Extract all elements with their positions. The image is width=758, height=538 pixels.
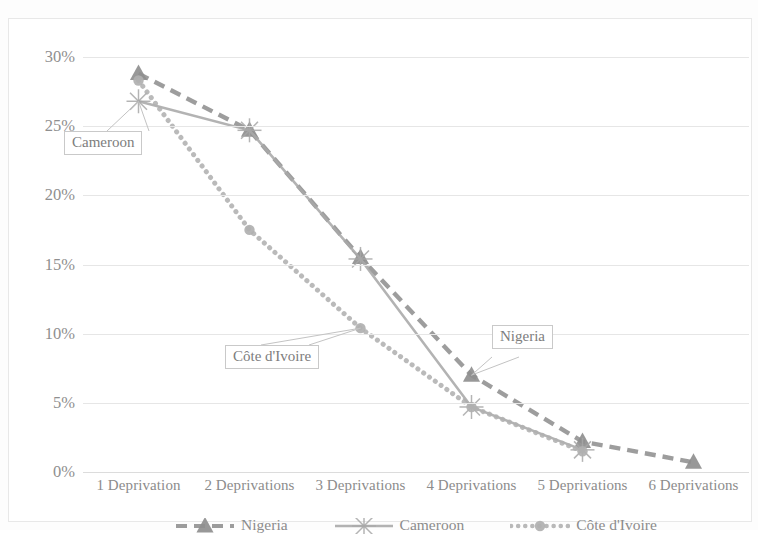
data-point-marker-circle bbox=[577, 446, 587, 456]
gridline-30 bbox=[83, 57, 749, 58]
data-point-marker-circle bbox=[355, 323, 365, 333]
legend-key-circle-icon bbox=[510, 518, 570, 532]
data-point-marker-star bbox=[238, 118, 262, 142]
callout-cote-divoire: Côte d'Ivoire bbox=[225, 345, 319, 369]
data-point-marker-star bbox=[349, 247, 373, 271]
x-axis-tick-1: 1 Deprivation bbox=[83, 477, 194, 503]
gridline-20 bbox=[83, 195, 749, 196]
x-axis-tick-3: 3 Deprivations bbox=[305, 477, 416, 503]
y-axis-tick-10pct: 10% bbox=[45, 324, 75, 344]
data-point-marker-circle bbox=[244, 225, 254, 235]
callout-nigeria-label: Nigeria bbox=[500, 328, 545, 344]
data-point-marker-triangle bbox=[463, 366, 480, 381]
y-axis-tick-30pct: 30% bbox=[45, 47, 75, 67]
gridline-15 bbox=[83, 265, 749, 266]
x-axis-tick-5: 5 Deprivations bbox=[527, 477, 638, 503]
legend-key-triangle-icon bbox=[175, 518, 235, 532]
data-point-marker-star bbox=[352, 518, 376, 534]
chart-legend: NigeriaCameroonCôte d'Ivoire bbox=[83, 511, 749, 538]
callout-cameroon: Cameroon bbox=[64, 131, 142, 155]
y-axis-tick-20pct: 20% bbox=[45, 185, 75, 205]
series-line-nigeria bbox=[139, 74, 694, 463]
x-axis-tick-2: 2 Deprivations bbox=[194, 477, 305, 503]
data-point-marker-circle bbox=[535, 521, 545, 531]
data-point-marker-circle bbox=[133, 75, 143, 85]
legend-item-c-te-d-ivoire[interactable]: Côte d'Ivoire bbox=[510, 516, 657, 534]
x-axis-tick-6: 6 Deprivations bbox=[638, 477, 749, 503]
gridline-25 bbox=[83, 126, 749, 127]
x-axis-tick-4: 4 Deprivations bbox=[416, 477, 527, 503]
series-line-cameroon bbox=[139, 101, 583, 450]
y-axis-tick-15pct: 15% bbox=[45, 255, 75, 275]
gridline-0 bbox=[83, 472, 749, 473]
legend-label: Nigeria bbox=[241, 516, 287, 534]
chart-frame: 0%5%10%15%20%25%30% Cameroon Côte d'Ivoi… bbox=[8, 18, 752, 522]
legend-item-cameroon[interactable]: Cameroon bbox=[334, 516, 465, 534]
legend-label: Cameroon bbox=[400, 516, 465, 534]
legend-item-nigeria[interactable]: Nigeria bbox=[175, 516, 287, 534]
plot-area bbox=[83, 57, 749, 472]
legend-key-star-icon bbox=[334, 518, 394, 532]
callout-cote-divoire-label: Côte d'Ivoire bbox=[233, 348, 311, 364]
y-axis-tick-5pct: 5% bbox=[53, 393, 75, 413]
y-axis-tick-0pct: 0% bbox=[53, 462, 75, 482]
gridline-5 bbox=[83, 403, 749, 404]
legend-label: Côte d'Ivoire bbox=[576, 516, 657, 534]
callout-nigeria: Nigeria bbox=[492, 325, 553, 349]
callout-cameroon-label: Cameroon bbox=[72, 134, 134, 150]
x-axis-labels: 1 Deprivation2 Deprivations3 Deprivation… bbox=[83, 477, 749, 503]
gridline-10 bbox=[83, 334, 749, 335]
